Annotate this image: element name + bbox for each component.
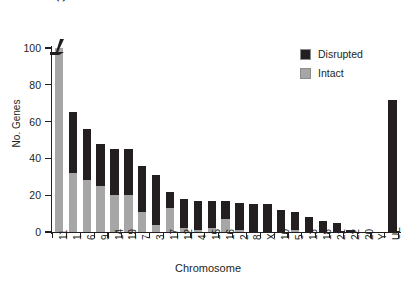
x-label-slot: Y: [371, 239, 385, 263]
bar-slot[interactable]: [121, 48, 135, 232]
y-axis-tick: [45, 47, 51, 48]
y-axis-tick: [45, 195, 51, 196]
x-label-slot: 8: [246, 239, 260, 263]
x-label-slot: 11: [52, 239, 66, 263]
bar-segment-disrupted: [263, 204, 271, 232]
bar-segment-disrupted: [249, 204, 257, 232]
x-label-slot: 5: [288, 239, 302, 263]
bar-slot[interactable]: [135, 48, 149, 232]
bar-slot[interactable]: [149, 48, 163, 232]
bar-segment-disrupted: [152, 175, 160, 225]
bar-segment-disrupted: [291, 212, 299, 230]
bar-segment-intact: [83, 180, 91, 232]
x-label-slot: 15: [205, 239, 219, 263]
bar[interactable]: [194, 201, 202, 232]
bar-slot[interactable]: [163, 48, 177, 232]
bar-segment-disrupted: [208, 201, 216, 229]
bar[interactable]: [249, 204, 257, 232]
bar-slot[interactable]: [260, 48, 274, 232]
legend-item-disrupted: Disrupted: [300, 48, 363, 60]
x-label-slot: 12: [177, 239, 191, 263]
legend-swatch-disrupted-icon: [300, 49, 311, 60]
bar-segment-disrupted: [138, 166, 146, 212]
x-label-slot: 2: [233, 239, 247, 263]
x-label-slot: X: [260, 239, 274, 263]
x-label-slot: 20: [358, 239, 372, 263]
bar[interactable]: [110, 149, 118, 232]
y-axis-tick-label: 20: [0, 190, 41, 200]
x-label-slot: 13: [302, 239, 316, 263]
y-axis-tick: [45, 231, 51, 232]
y-axis-tick: [45, 121, 51, 122]
bar-segment-disrupted: [166, 192, 174, 209]
bar[interactable]: [263, 204, 271, 232]
bar-slot[interactable]: [52, 48, 66, 232]
x-label-slot: 4: [191, 239, 205, 263]
y-axis-title: No. Genes: [11, 89, 22, 159]
legend-label-disrupted: Disrupted: [318, 48, 363, 60]
bar-segment-intact: [152, 225, 160, 232]
bar-segment-disrupted: [180, 199, 188, 228]
bar-slot[interactable]: [219, 48, 233, 232]
x-label-slot: 6: [80, 239, 94, 263]
bar-slot[interactable]: [177, 48, 191, 232]
bar-segment-disrupted: [194, 201, 202, 230]
bar-segment-disrupted: [96, 144, 104, 186]
bar[interactable]: [152, 175, 160, 232]
bar[interactable]: [96, 144, 104, 232]
bar[interactable]: [69, 112, 77, 232]
y-axis-tick: [45, 84, 51, 85]
x-label-slot: 14: [108, 239, 122, 263]
bar-slot[interactable]: [205, 48, 219, 232]
bar[interactable]: [235, 203, 243, 232]
x-label-slot: 19: [121, 239, 135, 263]
x-axis-title: Chromosome: [0, 262, 416, 274]
bar-slot[interactable]: [191, 48, 205, 232]
bar-slot[interactable]: [274, 48, 288, 232]
bar-segment-disrupted: [83, 129, 91, 181]
x-label-slot: 21: [330, 239, 344, 263]
x-label-slot: 3: [149, 239, 163, 263]
bar-segment-disrupted: [388, 100, 396, 232]
x-axis-labels: 1116914197317124151628X1051318212220YUL: [52, 239, 400, 263]
x-label-slot: 10: [274, 239, 288, 263]
bar[interactable]: [55, 48, 63, 232]
bar[interactable]: [388, 100, 396, 232]
bar-slot[interactable]: [246, 48, 260, 232]
bar[interactable]: [83, 129, 91, 232]
bar-slot[interactable]: [233, 48, 247, 232]
bar-slot[interactable]: [385, 48, 399, 232]
x-label-slot: 18: [316, 239, 330, 263]
bar-segment-intact: [96, 186, 104, 232]
x-label-slot: 16: [219, 239, 233, 263]
bar-slot[interactable]: [371, 48, 385, 232]
bar-segment-intact: [138, 212, 146, 232]
bar[interactable]: [138, 166, 146, 232]
axis-break-value: 361: [55, 0, 67, 2]
x-axis-tick-label: UL: [392, 227, 402, 240]
bar[interactable]: [291, 212, 299, 232]
bar-slot[interactable]: [80, 48, 94, 232]
chart-figure: 020406080100 No. Genes 361 1116914197317…: [0, 0, 416, 285]
legend: Disrupted Intact: [300, 48, 363, 86]
y-axis-tick-label: 0: [0, 227, 41, 237]
bar-segment-disrupted: [124, 149, 132, 195]
bar[interactable]: [166, 192, 174, 232]
bar[interactable]: [124, 149, 132, 232]
bar-segment-intact: [69, 173, 77, 232]
bar-slot[interactable]: [108, 48, 122, 232]
x-axis-tick: [52, 232, 53, 238]
bar-segment-intact: [110, 195, 118, 232]
x-label-slot: 9: [94, 239, 108, 263]
bar-slot[interactable]: [66, 48, 80, 232]
y-axis-tick: [45, 158, 51, 159]
bar-slot[interactable]: [94, 48, 108, 232]
bar[interactable]: [180, 199, 188, 232]
x-label-slot: 7: [135, 239, 149, 263]
bar[interactable]: [221, 201, 229, 232]
bar-segment-disrupted: [221, 201, 229, 219]
bar[interactable]: [208, 201, 216, 232]
bar-segment-intact: [124, 195, 132, 232]
bar-segment-disrupted: [235, 203, 243, 231]
legend-item-intact: Intact: [300, 67, 363, 79]
